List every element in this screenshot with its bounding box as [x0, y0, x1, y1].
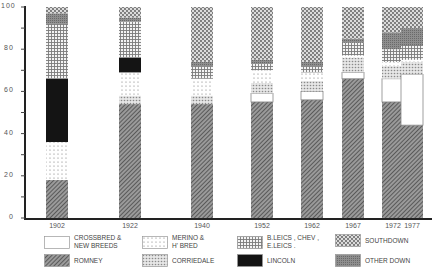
segment-leics [301, 66, 323, 72]
stacked-bar-chart [0, 0, 434, 230]
segment-merino [382, 62, 404, 66]
bar-1922 [119, 7, 141, 218]
segment-corriedale [301, 81, 323, 92]
legend-label: Corriedale [172, 257, 214, 265]
x-tick-label: 1940 [187, 222, 217, 229]
segment-otherdown [191, 62, 213, 66]
y-tick-label: 20 [4, 171, 14, 178]
legend-item-crossbred: Crossbred & New Breeds [44, 234, 121, 250]
segment-romney [342, 79, 364, 218]
segment-merino [119, 72, 141, 95]
legend-item-corriedale: Corriedale [142, 254, 214, 267]
legend: Crossbred & New BreedsMerino & H' BredB.… [0, 232, 434, 277]
segment-otherdown [382, 32, 404, 49]
bar-1967 [342, 7, 364, 218]
legend-swatch-romney [44, 254, 70, 267]
bars [46, 7, 423, 218]
y-tick-label: 40 [4, 129, 14, 136]
axes [21, 6, 432, 219]
segment-romney [191, 104, 213, 218]
segment-southdown [251, 7, 273, 60]
legend-label: Other Down [365, 257, 410, 265]
x-tick-label: 1977 [397, 222, 427, 229]
segment-crossbred [342, 72, 364, 78]
legend-item-leics: B.Leics , Chev , E.Leics . [237, 234, 319, 250]
segment-leics [401, 45, 423, 60]
x-tick-label: 1967 [338, 222, 368, 229]
segment-romney [46, 180, 68, 218]
segment-romney [251, 102, 273, 218]
segment-merino [191, 79, 213, 96]
bar-1940 [191, 7, 213, 218]
segment-southdown [342, 7, 364, 39]
x-tick-label: 1922 [115, 222, 145, 229]
segment-southdown [401, 7, 423, 28]
legend-item-merino: Merino & H' Bred [142, 234, 204, 250]
legend-label: Romney [74, 257, 103, 265]
x-tick-label: 1952 [247, 222, 277, 229]
segment-otherdown [401, 28, 423, 45]
x-tick-label: 1962 [297, 222, 327, 229]
segment-merino [301, 72, 323, 80]
bar-1977 [401, 7, 423, 218]
segment-corriedale [119, 96, 141, 104]
segment-lincoln [46, 79, 68, 142]
segment-leics [342, 43, 364, 56]
segment-corriedale [342, 58, 364, 73]
legend-item-southdown: Southdown [335, 234, 408, 247]
legend-label: B.Leics , Chev , E.Leics . [267, 234, 319, 250]
segment-romney [301, 100, 323, 218]
segment-corriedale [401, 62, 423, 75]
segment-lincoln [119, 58, 141, 73]
segment-southdown [301, 7, 323, 62]
bar-1902 [46, 7, 68, 218]
y-tick-label: 100 [1, 2, 16, 9]
legend-label: Crossbred & New Breeds [74, 234, 121, 250]
segment-leics [251, 64, 273, 70]
segment-leics [382, 49, 404, 62]
y-tick-label: 80 [4, 44, 14, 51]
legend-item-romney: Romney [44, 254, 103, 267]
x-tick-label: 1902 [42, 222, 72, 229]
segment-otherdown [342, 39, 364, 43]
segment-southdown [191, 7, 213, 62]
segment-corriedale [251, 83, 273, 94]
segment-leics [46, 24, 68, 79]
segment-otherdown [251, 60, 273, 64]
segment-corriedale [191, 96, 213, 104]
legend-swatch-crossbred [44, 236, 70, 249]
segment-crossbred [251, 94, 273, 102]
legend-label: Lincoln [267, 257, 295, 265]
segment-leics [191, 66, 213, 79]
legend-item-lincoln: Lincoln [237, 254, 295, 267]
segment-crossbred [301, 91, 323, 99]
segment-southdown [382, 7, 404, 32]
legend-swatch-otherdown [335, 254, 361, 267]
segment-southdown [46, 7, 68, 13]
y-tick-label: 60 [4, 86, 14, 93]
segment-merino [401, 60, 423, 62]
legend-item-otherdown: Other Down [335, 254, 410, 267]
segment-otherdown [301, 62, 323, 66]
legend-label: Merino & H' Bred [172, 234, 204, 250]
segment-merino [46, 142, 68, 180]
legend-label: Southdown [365, 237, 408, 245]
bar-1952 [251, 7, 273, 218]
segment-otherdown [46, 13, 68, 24]
segment-merino [251, 70, 273, 83]
segment-leics [119, 22, 141, 58]
segment-merino [342, 56, 364, 58]
segment-otherdown [119, 18, 141, 22]
segment-romney [119, 104, 141, 218]
legend-swatch-merino [142, 236, 168, 249]
segment-crossbred [401, 75, 423, 126]
legend-swatch-lincoln [237, 254, 263, 267]
bar-1962 [301, 7, 323, 218]
y-tick-label: 0 [9, 213, 14, 220]
segment-romney [401, 125, 423, 218]
legend-swatch-corriedale [142, 254, 168, 267]
segment-southdown [119, 7, 141, 18]
legend-swatch-southdown [335, 234, 361, 247]
legend-swatch-leics [237, 236, 263, 249]
